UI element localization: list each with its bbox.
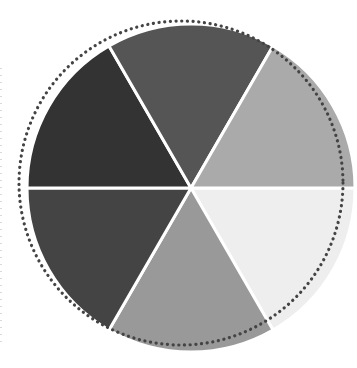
pie-chart	[0, 0, 357, 368]
pie-slices	[27, 24, 355, 352]
